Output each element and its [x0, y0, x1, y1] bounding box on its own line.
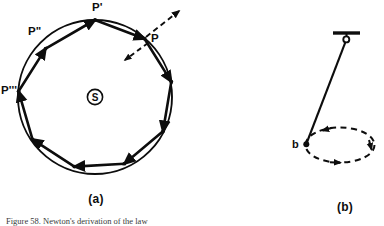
vertex	[73, 165, 77, 169]
vertex	[169, 80, 173, 84]
label-bob: b	[292, 138, 299, 150]
path-direction-arrow-right	[369, 140, 372, 150]
vertex-p	[143, 37, 147, 41]
panel-b-label: (b)	[337, 200, 353, 214]
polygon-edge	[124, 131, 163, 163]
path-direction-arrow-bottom	[330, 162, 341, 163]
label-p: P	[151, 32, 159, 44]
vertex-p-prime	[93, 18, 97, 22]
vertex-p-triple-prime	[17, 89, 21, 93]
figure-container: S P' P P" P''' (a)	[0, 0, 384, 226]
polygon-edge	[145, 39, 172, 82]
panel-a-diagram: S P' P P" P''' (a)	[1, 1, 179, 206]
label-p-triple-prime: P'''	[1, 84, 17, 96]
polygon-edge	[95, 20, 145, 39]
pendulum-string	[307, 42, 346, 143]
vertex	[31, 137, 35, 141]
vertex	[123, 162, 127, 166]
figure-caption-text: Figure 58. Newton's derivation of the la…	[6, 217, 246, 226]
pendulum-path-ellipse	[306, 128, 375, 163]
label-p-double-prime: P"	[28, 25, 41, 37]
polygon-edge	[74, 164, 124, 167]
vertex	[161, 129, 165, 133]
center-s-label: S	[92, 92, 99, 103]
figure-caption: Figure 58. Newton's derivation of the la…	[6, 217, 246, 226]
path-direction-arrow-top	[323, 128, 333, 131]
centripetal-arrow	[125, 43, 148, 60]
pivot-ring-icon	[343, 36, 349, 42]
panel-a-label: (a)	[88, 192, 104, 206]
panel-b-diagram: b (b)	[292, 33, 375, 214]
figure-svg: S P' P P" P''' (a)	[0, 0, 384, 226]
label-p-prime: P'	[92, 1, 103, 13]
vertex-p-double-prime	[44, 47, 48, 51]
